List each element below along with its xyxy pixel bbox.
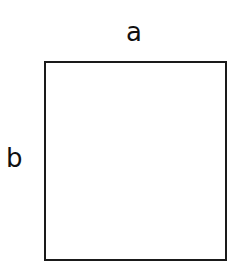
rectangle-shape	[44, 61, 227, 261]
side-label-a: a	[126, 19, 142, 45]
side-label-b: b	[6, 145, 23, 171]
